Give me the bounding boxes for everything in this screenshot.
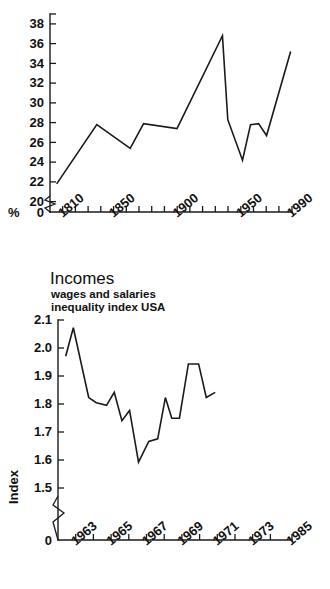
x-tick-label: 1990: [284, 190, 316, 220]
chart-subtitle-line1: wages and salaries: [50, 288, 156, 300]
x-tick-label: 1985: [283, 518, 315, 548]
y-tick-label: 1.6: [34, 452, 52, 467]
x-tick-label: 1850: [106, 190, 138, 220]
y-tick-label: 22: [30, 174, 44, 189]
x-tick-label: 1950: [233, 190, 265, 220]
y-tick-label: 1.9: [34, 368, 52, 383]
x-tick-label: 1963: [68, 518, 100, 548]
x-tick-label: 1973: [245, 518, 277, 548]
y-ticks-bottom: [58, 348, 64, 488]
y-axis-title: %: [8, 205, 20, 220]
x-tick-label: 1967: [139, 518, 171, 548]
chart-bottom-incomes: Incomes wages and salaries inequality in…: [0, 262, 330, 589]
chart-top-income-share: 38 36 34 32 30 28 26 24 22 20 0 %: [0, 0, 330, 262]
y-tick-label: 2.1: [34, 312, 52, 327]
x-tick-label: 1969: [174, 518, 206, 548]
y-axis-title: Index: [6, 469, 21, 504]
chart-title: Incomes: [50, 269, 114, 288]
y-tick-label: 34: [30, 56, 45, 71]
y-tick-label: 26: [30, 135, 44, 150]
x-tick-label: 1810: [55, 190, 87, 220]
x-tick-label: 1900: [169, 190, 201, 220]
y-tick-label: 30: [30, 95, 44, 110]
y-tick-label: 2.0: [34, 340, 52, 355]
chart-subtitle-line2: inequality index USA: [51, 301, 165, 313]
data-series-line-top: [57, 36, 291, 184]
data-series-line-bottom: [66, 328, 216, 462]
chart-top-canvas: 38 36 34 32 30 28 26 24 22 20 0 %: [0, 0, 330, 262]
y-tick-label: 32: [30, 75, 44, 90]
x-tick-label: 1971: [210, 518, 242, 548]
y-ticks-top: [50, 24, 56, 202]
y-tick-label: 1.5: [34, 480, 52, 495]
y-tick-label: 1.7: [34, 424, 52, 439]
y-tick-label: 1.8: [34, 396, 52, 411]
y-tick-label-zero: 0: [45, 533, 52, 548]
y-tick-label: 24: [30, 154, 45, 169]
y-tick-label: 28: [30, 115, 44, 130]
y-tick-label: 36: [30, 36, 44, 51]
y-tick-label-zero: 0: [37, 205, 44, 220]
x-tick-label: 1965: [103, 518, 135, 548]
y-tick-label: 38: [30, 16, 44, 31]
chart-bottom-canvas: Incomes wages and salaries inequality in…: [0, 262, 330, 589]
